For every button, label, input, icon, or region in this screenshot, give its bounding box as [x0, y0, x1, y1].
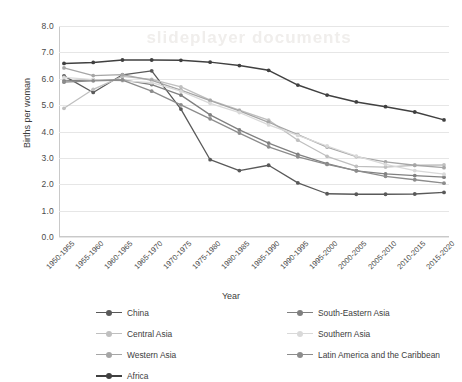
- data-point: [150, 69, 154, 73]
- data-point: [325, 163, 329, 167]
- data-point: [237, 64, 241, 68]
- data-point: [354, 154, 358, 158]
- y-axis-tick-label: 3.0: [14, 153, 54, 163]
- data-point: [296, 155, 300, 159]
- legend-label: China: [127, 308, 149, 318]
- y-axis-tick-label: 4.0: [14, 127, 54, 137]
- y-axis-tick-label: 7.0: [14, 47, 54, 57]
- data-point: [354, 169, 358, 173]
- data-point: [384, 163, 388, 167]
- data-point: [62, 80, 66, 84]
- data-point: [62, 66, 66, 70]
- data-point: [121, 73, 125, 77]
- data-point: [91, 79, 95, 83]
- data-point: [91, 74, 95, 78]
- data-point: [296, 134, 300, 138]
- data-point: [267, 163, 271, 167]
- legend-label: Western Asia: [127, 350, 176, 360]
- data-point: [354, 164, 358, 168]
- data-point: [325, 192, 329, 196]
- y-axis-title: Births per woman: [22, 38, 32, 188]
- data-point: [442, 191, 446, 195]
- y-axis-tick-label: 5.0: [14, 100, 54, 110]
- data-point: [62, 76, 66, 80]
- series-southern-asia: [62, 76, 446, 177]
- data-point: [296, 138, 300, 142]
- data-point: [267, 141, 271, 145]
- series-line: [64, 68, 444, 168]
- series-line: [64, 77, 444, 174]
- data-point: [208, 113, 212, 117]
- legend-marker-icon: [96, 308, 122, 317]
- data-point: [208, 60, 212, 64]
- data-point: [237, 169, 241, 173]
- legend-item-africa[interactable]: Africa: [96, 369, 148, 382]
- series-line: [64, 76, 444, 167]
- x-axis-tick-label: 2005-2010: [363, 239, 398, 274]
- y-axis-tick-label: 0.0: [14, 232, 54, 242]
- legend-item-china[interactable]: China: [96, 306, 149, 319]
- data-point: [91, 61, 95, 65]
- data-point: [413, 169, 417, 173]
- data-point: [413, 174, 417, 178]
- data-point: [384, 174, 388, 178]
- data-point: [296, 83, 300, 87]
- data-point: [237, 131, 241, 135]
- data-point: [208, 101, 212, 105]
- data-point: [237, 111, 241, 115]
- legend-marker-icon: [287, 308, 313, 317]
- legend-marker-icon: [96, 329, 122, 338]
- series-layer: [59, 26, 449, 237]
- series-south-eastern-asia: [62, 78, 446, 179]
- legend-label: South-Eastern Asia: [318, 308, 390, 318]
- data-point: [150, 58, 154, 62]
- data-point: [354, 192, 358, 196]
- data-point: [91, 87, 95, 91]
- data-point: [413, 192, 417, 196]
- y-axis-tick-label: 2.0: [14, 179, 54, 189]
- y-axis-tick-label: 6.0: [14, 74, 54, 84]
- data-point: [325, 154, 329, 158]
- data-point: [442, 181, 446, 185]
- legend-item-western-asia[interactable]: Western Asia: [96, 348, 176, 361]
- legend-item-latin-america-and-the-caribbean[interactable]: Latin America and the Caribbean: [287, 348, 440, 361]
- x-axis-tick-label: 1960-1965: [100, 239, 135, 274]
- data-point: [121, 58, 125, 62]
- legend-item-central-asia[interactable]: Central Asia: [96, 327, 172, 340]
- y-axis-tick-label: 8.0: [14, 21, 54, 31]
- data-point: [296, 181, 300, 185]
- legend-marker-icon: [287, 329, 313, 338]
- series-latin-america-and-the-caribbean: [62, 78, 446, 185]
- x-axis-tick-label: 1965-1970: [129, 239, 164, 274]
- data-point: [413, 163, 417, 167]
- data-point: [325, 93, 329, 97]
- series-central-asia: [62, 74, 446, 169]
- series-africa: [62, 58, 446, 122]
- x-axis-title: Year: [0, 291, 462, 301]
- x-axis-tick-label: 2000-2005: [334, 239, 369, 274]
- legend-label: Africa: [127, 371, 148, 381]
- y-axis-tick-label: 1.0: [14, 206, 54, 216]
- data-point: [325, 144, 329, 148]
- chart-legend: ChinaCentral AsiaWestern AsiaAfricaSouth…: [60, 306, 460, 378]
- data-point: [267, 68, 271, 72]
- legend-item-southern-asia[interactable]: Southern Asia: [287, 327, 370, 340]
- data-point: [179, 93, 183, 97]
- gridline: [59, 237, 449, 238]
- data-point: [179, 58, 183, 62]
- data-point: [208, 158, 212, 162]
- legend-marker-icon: [96, 371, 122, 380]
- series-line: [64, 60, 444, 120]
- legend-marker-icon: [287, 350, 313, 359]
- legend-label: Latin America and the Caribbean: [318, 350, 440, 360]
- data-point: [267, 123, 271, 127]
- legend-label: Southern Asia: [318, 329, 370, 339]
- series-western-asia: [62, 66, 446, 169]
- x-axis-tick-label: 1980-1985: [217, 239, 252, 274]
- legend-item-south-eastern-asia[interactable]: South-Eastern Asia: [287, 306, 390, 319]
- x-axis-tick-label: 1985-1990: [246, 239, 281, 274]
- data-point: [384, 192, 388, 196]
- x-axis-tick-labels: 1950-19551955-19601960-19651965-19701970…: [59, 239, 449, 291]
- data-point: [62, 62, 66, 66]
- data-point: [354, 100, 358, 104]
